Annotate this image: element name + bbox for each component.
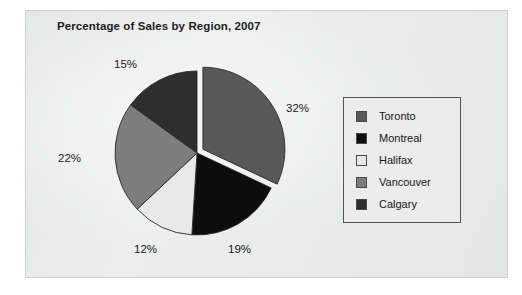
legend-swatch-icon bbox=[356, 155, 367, 166]
chart-legend: Toronto Montreal Halifax Vancouver Calga… bbox=[343, 97, 461, 223]
slice-label-calgary: 15% bbox=[114, 58, 137, 70]
pie-chart-figure: Percentage of Sales by Region, 2007 32% … bbox=[0, 0, 522, 295]
slice-label-montreal: 19% bbox=[228, 243, 251, 255]
legend-item-calgary: Calgary bbox=[344, 193, 460, 215]
slice-label-toronto: 32% bbox=[286, 102, 309, 114]
legend-item-label: Halifax bbox=[379, 154, 413, 166]
legend-swatch-icon bbox=[356, 111, 367, 122]
pie-slice-group bbox=[115, 67, 285, 235]
legend-item-label: Montreal bbox=[379, 132, 422, 144]
slice-label-halifax: 12% bbox=[134, 243, 157, 255]
legend-item-halifax: Halifax bbox=[344, 149, 460, 171]
legend-swatch-icon bbox=[356, 199, 367, 210]
legend-item-toronto: Toronto bbox=[344, 105, 460, 127]
pie-svg bbox=[106, 62, 288, 244]
slice-label-vancouver: 22% bbox=[58, 152, 81, 164]
pie-graphic bbox=[106, 62, 288, 244]
chart-title: Percentage of Sales by Region, 2007 bbox=[57, 20, 261, 32]
legend-item-label: Toronto bbox=[379, 110, 416, 122]
legend-item-montreal: Montreal bbox=[344, 127, 460, 149]
legend-item-label: Calgary bbox=[379, 198, 417, 210]
legend-item-label: Vancouver bbox=[379, 176, 431, 188]
legend-swatch-icon bbox=[356, 177, 367, 188]
legend-swatch-icon bbox=[356, 133, 367, 144]
legend-item-vancouver: Vancouver bbox=[344, 171, 460, 193]
